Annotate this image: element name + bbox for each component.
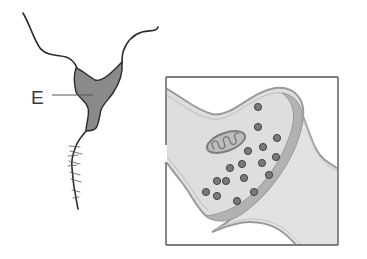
vesicle [213, 177, 220, 184]
neuron [23, 13, 158, 209]
vesicle [238, 160, 245, 167]
vesicle [233, 197, 240, 204]
diagram-canvas: E [0, 0, 367, 259]
label-e-text: E [31, 87, 44, 108]
vesicle [258, 159, 265, 166]
left-dendrite [23, 13, 77, 68]
vesicle [250, 188, 257, 195]
vesicle [272, 153, 279, 160]
vesicle [254, 103, 261, 110]
vesicle [213, 192, 220, 199]
vesicle [273, 134, 280, 141]
neuron-cell-body [75, 62, 123, 131]
vesicle [265, 171, 272, 178]
vesicle [244, 147, 251, 154]
right-dendrite [122, 27, 158, 64]
vesicle [240, 174, 247, 181]
synapse-inset [160, 77, 345, 250]
vesicle [222, 177, 229, 184]
vesicle [259, 143, 266, 150]
vesicle [202, 188, 209, 195]
vesicle [226, 164, 233, 171]
vesicle [254, 123, 261, 130]
